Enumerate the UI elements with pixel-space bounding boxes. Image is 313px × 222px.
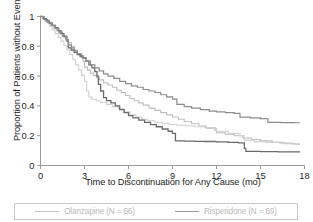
legend-label-olanzapine: Olanzapine (N = 66): [64, 207, 135, 216]
legend-item-risperidone: Risperidone (N = 69): [175, 207, 277, 216]
plot-area: 00.20.40.60.810369121518 Proportion of P…: [0, 0, 313, 195]
legend-swatch-risperidone: [175, 211, 199, 212]
y-tick-label: 0.2: [22, 131, 35, 141]
legend-item-olanzapine: Olanzapine (N = 66): [35, 207, 135, 216]
y-tick-label: 0.4: [22, 101, 35, 111]
y-tick-label: 0.6: [22, 72, 35, 82]
chart-legend: Olanzapine (N = 66) Risperidone (N = 69): [14, 203, 298, 220]
survival-curve-1: [41, 17, 301, 144]
survival-curve-2: [41, 17, 301, 152]
y-axis-title: Proportion of Patients without Event: [12, 0, 22, 149]
y-tick-label: 0: [29, 161, 34, 171]
legend-label-risperidone: Risperidone (N = 69): [204, 207, 277, 216]
curves-group: [41, 17, 301, 152]
figure-root: 00.20.40.60.810369121518 Proportion of P…: [0, 0, 313, 222]
survival-curve-svg: 00.20.40.60.810369121518: [0, 0, 313, 195]
x-axis-title: Time to Discontinuation for Any Cause (m…: [40, 177, 306, 187]
axes-group: [37, 16, 305, 170]
y-tick-label: 1: [29, 12, 34, 22]
y-tick-label: 0.8: [22, 42, 35, 52]
legend-swatch-olanzapine: [35, 211, 59, 212]
